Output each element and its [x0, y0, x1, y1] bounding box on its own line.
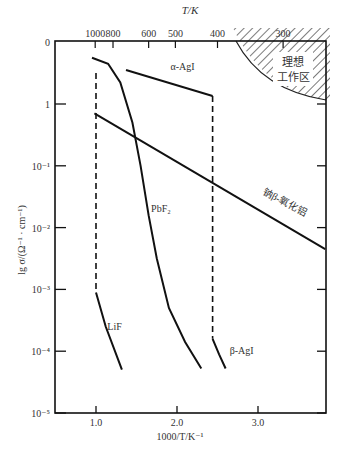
annotations: LiFPbF₂α-AgIβ-AgI钠β-氧化铝: [107, 61, 309, 356]
y-axis-label: lg σ/(Ω⁻¹ · cm⁻¹): [16, 205, 28, 275]
top-tick-label: 1000: [85, 28, 105, 39]
y-tick-label: 10⁻²: [32, 223, 50, 234]
series-line: [126, 70, 213, 96]
y-tick-label: 0: [45, 37, 50, 48]
axis-ticks: 1.02.03.00110⁻¹10⁻²10⁻³10⁻⁴10⁻⁵100080060…: [31, 28, 326, 428]
x-tick-label: 3.0: [252, 417, 265, 428]
series-line: [213, 339, 226, 369]
y-tick-label: 10⁻¹: [32, 161, 50, 172]
top-tick-label: 800: [106, 28, 121, 39]
y-tick-label: 10⁻³: [32, 284, 50, 295]
y-tick-label: 1: [45, 99, 50, 110]
series-label: 钠β-氧化铝: [261, 185, 309, 218]
x-tick-label: 1.0: [90, 417, 103, 428]
series-label: β-AgI: [230, 345, 254, 356]
data-series: [92, 58, 325, 370]
top-axis-label: T/K: [182, 4, 199, 16]
top-tick-label: 400: [210, 28, 225, 39]
series-label: α-AgI: [171, 61, 195, 72]
ideal-label-1: 理想: [282, 55, 304, 68]
y-tick-label: 10⁻⁵: [31, 408, 50, 419]
ideal-label-2: 工作区: [277, 71, 310, 83]
series-label: PbF₂: [151, 203, 171, 214]
top-tick-label: 500: [168, 28, 183, 39]
x-axis-label: 1000/T/K⁻¹: [156, 431, 203, 442]
series-line: [94, 113, 325, 249]
series-label: LiF: [107, 321, 122, 332]
top-tick-label: 600: [141, 28, 156, 39]
conductivity-chart: 理想 工作区 1.02.03.00110⁻¹10⁻²10⁻³10⁻⁴10⁻⁵10…: [0, 0, 343, 453]
y-tick-label: 10⁻⁴: [31, 346, 50, 357]
top-tick-label: 300: [276, 28, 291, 39]
x-tick-label: 2.0: [171, 417, 184, 428]
